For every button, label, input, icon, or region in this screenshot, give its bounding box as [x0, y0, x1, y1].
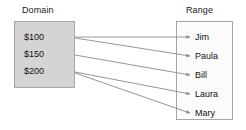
range-item-jim: Jim	[195, 33, 209, 42]
domain-item-200: $200	[24, 67, 44, 76]
mapping-arrow	[75, 73, 190, 113]
mapping-arrow	[75, 72, 190, 94]
mapping-arrow	[75, 55, 190, 75]
domain-title: Domain	[22, 5, 54, 15]
range-item-mary: Mary	[195, 109, 215, 118]
mapping-arrow	[75, 38, 190, 56]
range-item-bill: Bill	[195, 71, 207, 80]
mapping-diagram: Domain Range $100 $150 $200 Jim Paula Bi…	[0, 0, 246, 130]
range-title: Range	[186, 5, 213, 15]
range-item-laura: Laura	[195, 90, 218, 99]
domain-item-100: $100	[24, 33, 44, 42]
mapping-arrows	[75, 37, 190, 113]
range-item-paula: Paula	[195, 52, 218, 61]
domain-item-150: $150	[24, 50, 44, 59]
